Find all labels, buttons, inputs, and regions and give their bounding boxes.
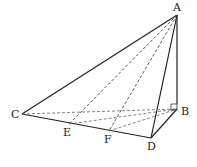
- edge-AD: [151, 15, 177, 138]
- edge-AC: [22, 15, 177, 114]
- edge-CB-dashed: [22, 109, 177, 114]
- label-D: D: [147, 140, 156, 153]
- tetrahedron-diagram: A B C D E F: [0, 0, 197, 167]
- label-C: C: [11, 108, 19, 121]
- edge-EB-dashed: [69, 109, 177, 124]
- label-E: E: [63, 126, 71, 139]
- label-A: A: [172, 1, 182, 14]
- edge-CD: [22, 114, 151, 138]
- label-B: B: [181, 105, 189, 118]
- label-F: F: [104, 133, 112, 146]
